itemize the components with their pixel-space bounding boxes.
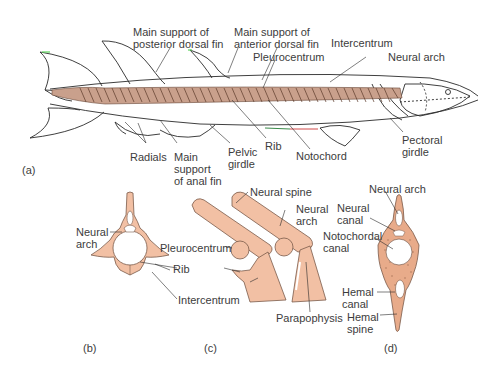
label-rib-b: Rib bbox=[173, 263, 190, 275]
label-pleurocentrum-c: Pleurocentrum bbox=[160, 242, 232, 254]
label-pelvic-girdle: Pelvic girdle bbox=[228, 146, 257, 170]
label-neural-arch-c: Neural arch bbox=[296, 203, 328, 227]
label-anal-fin-support: Main support of anal fin bbox=[174, 151, 222, 187]
panel-label-a: (a) bbox=[22, 164, 35, 176]
green-accent bbox=[265, 128, 290, 129]
vertebra-d bbox=[378, 195, 419, 332]
label-neural-arch-a: Neural arch bbox=[388, 51, 445, 63]
panel-label-d: (d) bbox=[384, 342, 397, 354]
label-hemal-spine: Hemal spine bbox=[347, 311, 379, 335]
label-neural-spine: Neural spine bbox=[250, 186, 312, 198]
panel-label-b: (b) bbox=[83, 342, 96, 354]
label-intercentrum-a: Intercentrum bbox=[331, 37, 393, 49]
label-neural-arch-b: Neural arch bbox=[76, 226, 108, 250]
label-anterior-dorsal-fin: Main support of anterior dorsal fin bbox=[234, 26, 319, 50]
label-notochord: Notochord bbox=[296, 150, 347, 162]
label-neural-arch-d: Neural arch bbox=[369, 183, 426, 195]
label-intercentrum-b: Intercentrum bbox=[178, 294, 240, 306]
label-parapophysis: Parapophysis bbox=[276, 312, 343, 324]
vertebral-column bbox=[52, 87, 402, 104]
panel-label-c: (c) bbox=[204, 342, 217, 354]
label-pleurocentrum-a: Pleurocentrum bbox=[253, 51, 325, 63]
label-notochordal-canal: Notochordal canal bbox=[323, 230, 382, 254]
label-pectoral-girdle: Pectoral girdle bbox=[402, 134, 442, 158]
label-rib-a: Rib bbox=[265, 140, 282, 152]
label-radials: Radials bbox=[130, 151, 167, 163]
label-hemal-canal: Hemal canal bbox=[342, 286, 374, 310]
label-neural-canal: Neural canal bbox=[337, 202, 369, 226]
label-posterior-dorsal-fin: Main support of posterior dorsal fin bbox=[133, 26, 224, 50]
